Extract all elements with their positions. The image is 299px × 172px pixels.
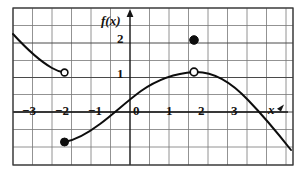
open-circle-limit-at-2	[190, 68, 198, 76]
unit-grid-lines	[13, 43, 293, 112]
x-tick-label-0: 0	[133, 104, 140, 117]
x-tick-label-2: 2	[198, 104, 205, 117]
y-tick-label-2: 2	[117, 32, 124, 45]
function-graph-figure: f(x) x 2 1 −3 −2 −1 0 1 2 3	[0, 0, 299, 172]
filled-dot-value-at-2	[190, 36, 199, 45]
plot-canvas	[0, 0, 299, 172]
grid-lines	[13, 8, 293, 165]
plot-border	[13, 8, 293, 165]
x-tick-label-3: 3	[231, 104, 238, 117]
y-axis-arrowhead	[127, 9, 134, 17]
filled-dot-lower-left	[61, 138, 69, 146]
x-axis-label: x	[268, 103, 275, 116]
x-axis-arrowhead	[277, 105, 284, 112]
open-circle-left-limit	[61, 69, 68, 76]
x-tick-label-1: 1	[166, 104, 173, 117]
x-tick-label-neg2: −2	[55, 104, 69, 117]
y-axis-label: f(x)	[101, 14, 121, 27]
curve-left-branch	[13, 34, 65, 73]
x-tick-label-neg3: −3	[22, 104, 36, 117]
x-tick-label-neg1: −1	[88, 104, 102, 117]
y-tick-label-1: 1	[117, 67, 124, 80]
